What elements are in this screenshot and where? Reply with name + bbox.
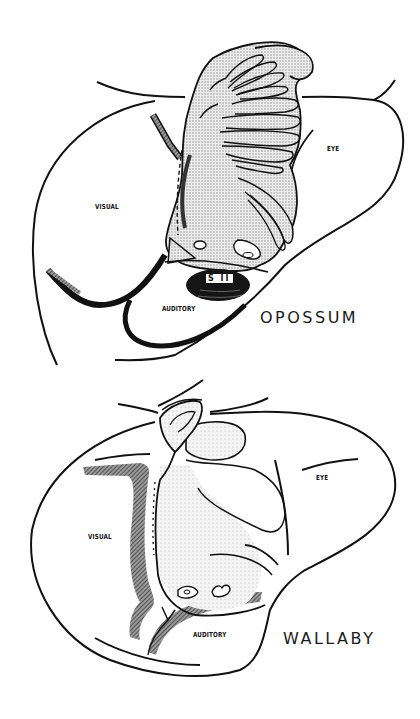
label-visual-area: VISUAL — [88, 533, 112, 541]
label-auditory-area: AUDITORY — [193, 631, 226, 639]
species-label-wallaby: WALLABY — [283, 629, 375, 648]
label-visual-area: VISUAL — [95, 203, 119, 211]
label-second-somatic-area: S II — [205, 273, 234, 284]
label-eye-area: EYE — [316, 474, 328, 482]
wallaby-brain-drawing — [0, 370, 420, 719]
species-label-opossum: OPOSSUM — [260, 308, 358, 327]
label-auditory-area: AUDITORY — [162, 305, 195, 313]
opossum-figure: VISUAL EYE AUDITORY S II OPOSSUM — [0, 0, 420, 370]
wallaby-figure: VISUAL EYE AUDITORY WALLABY — [0, 370, 420, 719]
label-eye-area: EYE — [327, 145, 339, 153]
